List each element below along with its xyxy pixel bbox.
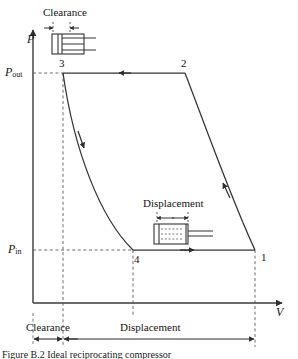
displacement-piston-diagram xyxy=(154,212,213,244)
figure-caption: Figure B.2 Ideal reciprocating compresso… xyxy=(2,349,298,359)
clearance-schematic-label: Clearance xyxy=(43,7,87,18)
state-point-4-label: 4 xyxy=(134,254,140,265)
process-direction-arrows xyxy=(78,73,230,250)
volume-axis-label: V xyxy=(276,306,283,318)
displacement-schematic-label: Displacement xyxy=(143,198,203,209)
process-1-2-compression xyxy=(185,73,255,250)
axes xyxy=(33,30,282,303)
process-paths xyxy=(63,73,255,250)
clearance-dimension-label: Clearance xyxy=(26,322,70,333)
clearance-piston-diagram xyxy=(44,22,96,54)
pout-subscript: out xyxy=(12,70,22,79)
pressure-axis-label: P xyxy=(27,33,34,45)
pressure-tick-pout: Pout xyxy=(5,66,23,79)
arrow-compression-up xyxy=(223,183,230,198)
state-point-1-label: 1 xyxy=(261,252,267,263)
pin-subscript: in xyxy=(15,247,21,256)
pressure-tick-pin: Pin xyxy=(8,243,22,256)
pv-diagram-figure xyxy=(0,0,298,359)
state-point-2-label: 2 xyxy=(181,58,187,69)
displacement-dimension-label: Displacement xyxy=(120,322,180,333)
process-3-4-expansion xyxy=(63,73,133,250)
state-point-3-label: 3 xyxy=(59,58,65,69)
guide-lines xyxy=(33,73,255,347)
